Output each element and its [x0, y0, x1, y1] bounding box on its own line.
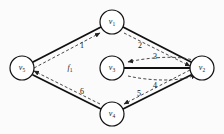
solid-edge-v2-v4 — [123, 75, 191, 109]
face-label-f1: f1 — [68, 63, 73, 74]
edge-label-3: 3 — [153, 52, 157, 61]
solid-edge-v1-v2 — [123, 27, 191, 62]
dashed-arrow-6 — [34, 71, 100, 104]
node-label-v5: v5 — [19, 63, 25, 74]
node-label-v3: v3 — [109, 63, 115, 74]
solid-edge-v5-v1 — [33, 27, 101, 62]
node-label-v2: v2 — [199, 63, 205, 74]
node-label-v4: v4 — [109, 109, 115, 120]
edge-label-5: 5 — [137, 89, 141, 98]
edge-label-4: 4 — [153, 81, 157, 90]
graph-figure: v1 v5 v3 v2 v4 1 2 3 4 5 6 f1 — [0, 0, 224, 134]
edge-label-2: 2 — [138, 41, 142, 50]
edge-label-1: 1 — [80, 41, 84, 50]
solid-edge-v4-v5 — [33, 75, 101, 109]
node-label-v1: v1 — [109, 17, 115, 28]
dashed-arrow-5 — [124, 70, 190, 104]
edge-label-6: 6 — [80, 87, 84, 96]
